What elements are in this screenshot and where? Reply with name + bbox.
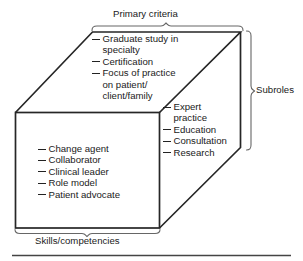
primary-criteria-list: Graduate study in specialty Certificatio…: [92, 33, 197, 101]
cube-diagram: Primary criteria Subroles Skills/compete…: [0, 0, 303, 261]
dash-icon: [163, 141, 171, 142]
list-item: Collaborator: [38, 154, 158, 165]
list-item: Certification: [92, 56, 197, 67]
list-item-text: Patient advocate: [49, 189, 120, 200]
list-item: Research: [163, 147, 248, 158]
list-item: Graduate study in specialty: [92, 33, 197, 56]
list-item-text: Certification: [103, 56, 154, 67]
list-item-text: Focus of practice: [103, 67, 176, 78]
dash-icon: [92, 39, 100, 40]
list-item: Expert practice: [163, 101, 248, 124]
primary-criteria-brace: [92, 23, 243, 31]
dash-icon: [163, 152, 171, 153]
list-item-text: Role model: [49, 177, 98, 188]
list-item-text: Research: [174, 147, 215, 158]
dash-icon: [92, 61, 100, 62]
list-item-text: Change agent: [49, 143, 109, 154]
skills-competencies-list: Change agent Collaborator Clinical leade…: [38, 143, 158, 200]
skills-competencies-label: Skills/competencies: [35, 235, 120, 246]
dash-icon: [38, 171, 46, 172]
list-item-text-cont: specialty: [92, 44, 197, 55]
list-item: Patient advocate: [38, 189, 158, 200]
list-item-text-cont: practice: [163, 112, 248, 123]
list-item: Focus of practice on patient/ client/fam…: [92, 67, 197, 101]
list-item-text: Expert: [174, 101, 202, 112]
list-item: Change agent: [38, 143, 158, 154]
list-item-text-cont: client/family: [92, 90, 197, 101]
list-item-text: Clinical leader: [49, 166, 109, 177]
dash-icon: [38, 194, 46, 195]
list-item-text: Graduate study in: [103, 33, 179, 44]
dash-icon: [38, 183, 46, 184]
subroles-list: Expert practice Education Consultation R…: [163, 101, 248, 158]
list-item-text-cont: on patient/: [92, 79, 197, 90]
subroles-label: Subroles: [256, 84, 294, 95]
dash-icon: [38, 160, 46, 161]
list-item: Role model: [38, 177, 158, 188]
list-item: Consultation: [163, 135, 248, 146]
dash-icon: [38, 149, 46, 150]
list-item-text: Consultation: [174, 135, 227, 146]
primary-criteria-label: Primary criteria: [113, 8, 178, 19]
list-item: Education: [163, 124, 248, 135]
list-item-text: Collaborator: [49, 154, 101, 165]
list-item: Clinical leader: [38, 166, 158, 177]
dash-icon: [92, 73, 100, 74]
dash-icon: [163, 107, 171, 108]
dash-icon: [163, 129, 171, 130]
list-item-text: Education: [174, 124, 217, 135]
